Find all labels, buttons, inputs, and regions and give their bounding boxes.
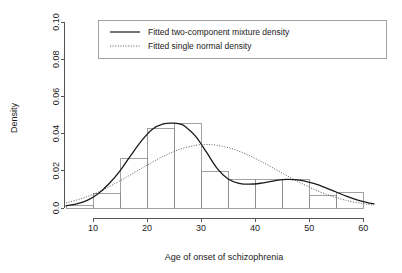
histogram-bar xyxy=(282,180,309,208)
legend-item-label: Fitted two-component mixture density xyxy=(148,27,290,37)
chart-legend: Fitted two-component mixture densityFitt… xyxy=(98,20,386,58)
x-axis-tick-label: 50 xyxy=(304,223,314,233)
chart-container: 0.00.020.040.060.080.10 102030405060 Fit… xyxy=(0,0,402,273)
histogram-bar xyxy=(174,123,201,208)
x-axis-tick-label: 10 xyxy=(88,223,98,233)
histogram-bar xyxy=(147,128,174,208)
y-axis-tick-label: 0.10 xyxy=(51,13,61,31)
x-axis-tick-label: 30 xyxy=(196,223,206,233)
y-axis-title: Density xyxy=(9,102,19,133)
histogram-bar xyxy=(309,196,336,208)
y-axis-tick-label: 0.08 xyxy=(51,50,61,68)
density-plot: 0.00.020.040.060.080.10 102030405060 Fit… xyxy=(0,0,402,273)
x-axis-tick-label: 60 xyxy=(358,223,368,233)
y-axis-tick-label: 0.06 xyxy=(51,88,61,106)
legend-box xyxy=(98,20,386,58)
x-axis-tick-label: 20 xyxy=(142,223,152,233)
y-axis-tick-label: 0.04 xyxy=(51,125,61,143)
y-axis-tick-label: 0.02 xyxy=(51,162,61,180)
y-axis-tick-label: 0.0 xyxy=(51,202,61,215)
x-axis-title: Age of onset of schizophrenia xyxy=(165,252,284,262)
x-axis-tick-label: 40 xyxy=(250,223,260,233)
x-axis: 102030405060 xyxy=(88,218,368,233)
legend-item-label: Fitted single normal density xyxy=(148,41,252,51)
y-axis: 0.00.020.040.060.080.10 xyxy=(51,13,64,214)
histogram-bar xyxy=(201,172,228,208)
histogram-bar xyxy=(93,193,120,208)
